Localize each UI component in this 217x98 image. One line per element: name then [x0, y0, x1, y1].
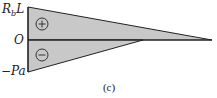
- figure-caption: (c): [103, 81, 116, 94]
- moment-diagram: RbL O −Pa (c): [0, 0, 217, 98]
- positive-region: [28, 7, 212, 40]
- negative-region: [28, 40, 143, 72]
- bottom-value-label: −Pa: [1, 64, 26, 78]
- origin-label: O: [14, 33, 24, 47]
- top-value-label: RbL: [1, 2, 24, 18]
